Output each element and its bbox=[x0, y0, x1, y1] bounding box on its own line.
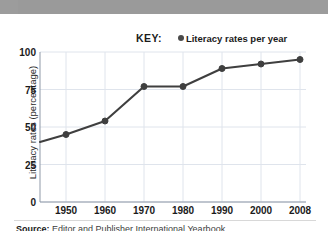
data-point-marker bbox=[180, 84, 186, 90]
plot-area bbox=[40, 52, 306, 202]
data-point-marker bbox=[102, 118, 108, 124]
y-tick-label: 75 bbox=[12, 84, 36, 95]
y-tick-label: 100 bbox=[12, 47, 36, 58]
y-tick-label: 25 bbox=[12, 159, 36, 170]
legend-key-label: KEY: bbox=[136, 32, 162, 44]
y-axis-tick-labels: 0255075100 bbox=[10, 52, 36, 202]
filled-circle-marker-icon bbox=[178, 35, 184, 41]
x-tick-label: 2008 bbox=[289, 205, 311, 216]
x-tick-label: 1970 bbox=[133, 205, 155, 216]
data-point-marker bbox=[141, 84, 147, 90]
chart-figure: KEY: Literacy rates per year Literacy ra… bbox=[0, 0, 328, 231]
x-tick-label: 1960 bbox=[94, 205, 116, 216]
x-tick-label: 2000 bbox=[250, 205, 272, 216]
legend-entry-label: Literacy rates per year bbox=[186, 33, 287, 44]
chart-legend: KEY: Literacy rates per year bbox=[136, 30, 328, 46]
chart-card: KEY: Literacy rates per year Literacy ra… bbox=[6, 14, 322, 228]
source-text: Editor and Publisher International Yearb… bbox=[50, 224, 226, 231]
gridlines bbox=[40, 52, 306, 202]
data-point-marker bbox=[219, 66, 225, 72]
data-point-marker bbox=[63, 132, 69, 138]
source-label: Source: bbox=[16, 224, 50, 231]
line-chart-svg bbox=[40, 52, 306, 202]
top-grey-band-inner bbox=[18, 0, 310, 14]
legend-entry-literacy-rates: Literacy rates per year bbox=[178, 33, 287, 44]
x-axis-tick-labels: 1950196019701980199020002008 bbox=[40, 205, 312, 219]
source-divider bbox=[14, 220, 316, 221]
y-tick-label: 0 bbox=[12, 197, 36, 208]
data-point-marker bbox=[297, 57, 303, 63]
top-grey-band bbox=[0, 0, 328, 14]
x-tick-label: 1950 bbox=[55, 205, 77, 216]
x-tick-label: 1990 bbox=[211, 205, 233, 216]
y-tick-label: 50 bbox=[12, 122, 36, 133]
source-note: Source: Editor and Publisher Internation… bbox=[16, 224, 316, 231]
x-tick-label: 1980 bbox=[172, 205, 194, 216]
data-point-marker bbox=[258, 61, 264, 67]
series-literacy-rates bbox=[40, 57, 303, 143]
